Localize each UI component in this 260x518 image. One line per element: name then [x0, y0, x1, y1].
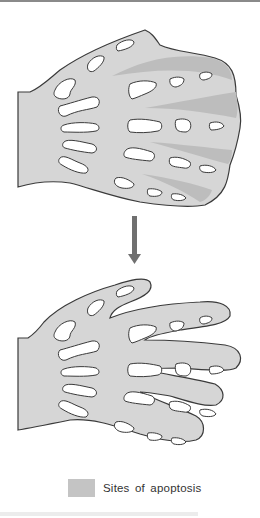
legend-swatch-apoptosis	[68, 479, 95, 497]
legend-label: Sites of apoptosis	[103, 482, 201, 494]
webbed-hand	[18, 30, 241, 206]
digit-hand	[18, 279, 241, 445]
apoptosis-diagram	[0, 0, 260, 518]
digit-hand-outline	[18, 279, 241, 442]
legend: Sites of apoptosis	[68, 479, 201, 497]
bottom-caption-bar	[0, 512, 198, 516]
transition-arrow-icon	[128, 216, 141, 264]
webbed-hand-outline	[18, 30, 241, 206]
